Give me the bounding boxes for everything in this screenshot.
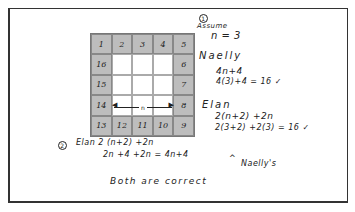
grid-cell: 3 xyxy=(132,34,153,54)
elan-name: Elan xyxy=(202,99,232,110)
elan-expression: 2(n+2) +2n xyxy=(215,111,274,121)
naellys-label: Naelly's xyxy=(241,159,276,168)
step2-line2: 2n +4 +2n = 4n+4 xyxy=(103,150,189,159)
grid-cell: 10 xyxy=(153,116,174,136)
grid-cell: 11 xyxy=(132,116,153,136)
arrow-right-icon: ▶ xyxy=(169,101,174,109)
grid-cell-inner xyxy=(112,54,133,74)
naelly-name: Naelly xyxy=(199,50,242,61)
step2-line1: Elan 2 (n+2) +2n xyxy=(76,138,154,147)
grid-cell: 6 xyxy=(173,54,194,74)
grid-cell: 1 xyxy=(91,34,112,54)
grid-cell-inner xyxy=(153,75,174,95)
naelly-expression: 4n+4 xyxy=(216,66,243,76)
grid-cell: 12 xyxy=(112,116,133,136)
step2-marker: 2 xyxy=(58,141,67,150)
grid-cell: 5 xyxy=(173,34,194,54)
grid-cell: 16 xyxy=(91,54,112,74)
grid-cell-inner xyxy=(132,54,153,74)
naelly-calculation: 4(3)+4 = 16 ✓ xyxy=(216,77,282,86)
square-grid: 1 2 3 4 5 16 6 15 7 14 8 13 12 11 10 9 xyxy=(90,33,195,137)
grid-cell-inner xyxy=(153,54,174,74)
grid-cell: 8 xyxy=(173,95,194,115)
grid-cell: 13 xyxy=(91,116,112,136)
grid-cell: 4 xyxy=(153,34,174,54)
grid-cell-inner xyxy=(132,75,153,95)
caret-mark: ^ xyxy=(229,154,236,163)
grid-cell: 9 xyxy=(173,116,194,136)
assume-label: Assume xyxy=(197,22,228,30)
arrow-left-icon: ◀ xyxy=(112,101,117,109)
n-value: n = 3 xyxy=(211,30,241,41)
grid-cell: 15 xyxy=(91,75,112,95)
grid-cell: 7 xyxy=(173,75,194,95)
conclusion: Both are correct xyxy=(110,176,207,186)
grid-cell-inner xyxy=(112,75,133,95)
elan-calculation: 2(3+2) +2(3) = 16 ✓ xyxy=(215,123,310,132)
grid-cell: 14 xyxy=(91,95,112,115)
arrow-label: n xyxy=(139,104,147,111)
n-length-arrow: ◀ n ▶ xyxy=(114,103,172,111)
grid-cell: 2 xyxy=(112,34,133,54)
